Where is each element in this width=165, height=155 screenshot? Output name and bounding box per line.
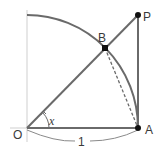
label-B: B bbox=[98, 31, 106, 45]
segment-BA-dashed bbox=[105, 48, 138, 128]
label-P: P bbox=[143, 10, 151, 24]
label-angle-x: x bbox=[48, 114, 55, 128]
label-O: O bbox=[13, 128, 22, 142]
point-P bbox=[135, 12, 141, 18]
label-A: A bbox=[145, 123, 153, 137]
unit-circle-diagram: P B A O x 1 bbox=[0, 0, 165, 155]
length-brace-right bbox=[90, 130, 138, 141]
length-brace-left bbox=[27, 130, 75, 141]
diagram-svg: P B A O x 1 bbox=[0, 0, 165, 155]
point-B bbox=[102, 45, 108, 51]
point-A bbox=[135, 125, 141, 131]
label-length-1: 1 bbox=[78, 135, 85, 149]
